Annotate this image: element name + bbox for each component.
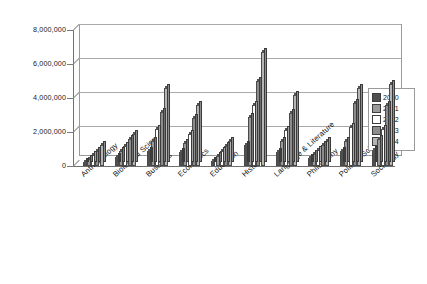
bar-side-face	[296, 91, 299, 162]
bar-side-face	[103, 141, 106, 162]
chart-container: 02,000,0004,000,0006,000,0008,000,000 An…	[0, 0, 427, 284]
bar-side-face	[324, 141, 327, 162]
bar-side-face	[186, 139, 189, 162]
bar-side-face	[259, 77, 262, 162]
bar-side-face	[352, 123, 355, 162]
bar-side-face	[388, 101, 391, 162]
bar-side-face	[135, 130, 138, 162]
bar-2000	[372, 150, 376, 166]
legend-swatch-icon	[372, 93, 381, 102]
bar-side-face	[287, 126, 290, 162]
bar-side-face	[231, 137, 234, 163]
bar-side-face	[356, 99, 359, 162]
bar-side-face	[247, 141, 250, 162]
bar-side-face	[319, 146, 322, 162]
bar-side-face	[292, 109, 295, 162]
bar-2000	[115, 157, 119, 166]
bar-side-face	[163, 108, 166, 162]
bar-side-face	[315, 150, 318, 162]
bar-side-face	[375, 146, 378, 162]
bar-side-face	[264, 48, 267, 162]
bar-side-face	[255, 101, 258, 162]
bar-side-face	[380, 135, 383, 162]
bar-side-face	[90, 155, 93, 162]
bar-side-face	[360, 84, 363, 162]
bar-side-face	[279, 148, 282, 162]
bar-2000	[83, 162, 87, 166]
bar-side-face	[251, 113, 254, 162]
bar-side-face	[98, 147, 101, 162]
bar-side-face	[219, 152, 222, 162]
bar-side-face	[182, 148, 185, 162]
bar-side-face	[199, 101, 202, 162]
bar-side-face	[122, 147, 125, 162]
legend-swatch-icon	[372, 104, 381, 113]
bar-side-face	[311, 154, 314, 162]
bar-side-face	[167, 84, 170, 162]
bar-side-face	[195, 114, 198, 162]
bar-side-face	[384, 125, 387, 162]
bar-2000	[179, 152, 183, 166]
bar-2000	[276, 152, 280, 166]
bar-side-face	[126, 142, 129, 162]
bar-side-face	[191, 130, 194, 162]
bar-2000	[147, 151, 151, 166]
bar-side-face	[118, 153, 121, 162]
bar-side-face	[343, 147, 346, 162]
bar-side-face	[283, 137, 286, 163]
bar-side-face	[86, 158, 89, 162]
bar-side-face	[214, 157, 217, 162]
bar-2000	[211, 161, 215, 166]
bar-side-face	[94, 151, 97, 162]
bar-side-face	[227, 142, 230, 162]
bar-side-face	[347, 137, 350, 163]
bar-side-face	[392, 80, 395, 162]
bar-side-face	[154, 137, 157, 163]
legend-swatch-icon	[372, 115, 381, 124]
bar-side-face	[158, 125, 161, 162]
bar-side-face	[131, 135, 134, 162]
bar-2000	[308, 158, 312, 166]
bar-2000	[244, 145, 248, 166]
bar-side-face	[150, 147, 153, 162]
legend-swatch-icon	[372, 126, 381, 135]
bar-2000	[340, 151, 344, 166]
bar-side-face	[223, 147, 226, 162]
bar-side-face	[328, 137, 331, 163]
